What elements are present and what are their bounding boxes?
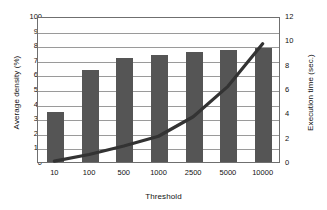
- bar: [255, 48, 272, 162]
- y-axis-right-tick: 6: [285, 85, 319, 94]
- bar: [47, 112, 64, 162]
- bar: [82, 70, 99, 162]
- x-axis-tick: 10000: [240, 168, 286, 177]
- chart-container: Average density (%) Execution time (sec.…: [0, 0, 327, 210]
- y-axis-right-tick: 0: [285, 158, 319, 167]
- y-axis-right-tick: 12: [285, 12, 319, 21]
- plot-area: [37, 17, 280, 163]
- bar: [186, 52, 203, 162]
- y-axis-right-tick: 2: [285, 134, 319, 143]
- bar: [151, 55, 168, 162]
- y-axis-right-tick: 8: [285, 61, 319, 70]
- gridline: [38, 47, 279, 48]
- bar: [220, 50, 237, 162]
- x-axis-title: Threshold: [0, 192, 327, 201]
- y-axis-right-tick: 10: [285, 36, 319, 45]
- gridline: [38, 33, 279, 34]
- bar: [116, 58, 133, 162]
- y-axis-right-tick: 4: [285, 109, 319, 118]
